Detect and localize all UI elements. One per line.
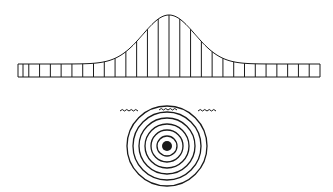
source-dot (162, 141, 172, 151)
wave-pulse-diagram (18, 15, 320, 77)
surface-wave (198, 110, 216, 112)
ripple-rings-diagram (120, 106, 216, 186)
surface-wave (159, 109, 177, 111)
surface-wave (120, 110, 138, 112)
diagram-canvas (0, 0, 333, 192)
